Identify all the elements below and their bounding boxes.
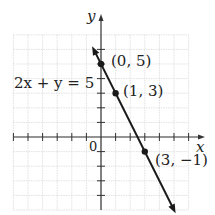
point-label-0-5: (0, 5): [111, 54, 151, 69]
y-axis-label: y: [87, 9, 95, 24]
point-label-1-3: (1, 3): [123, 84, 163, 99]
graph: y x 0 2x + y = 5 (0, 5) (1, 3) (3, −1): [0, 0, 215, 215]
line-arrow-down-icon: [168, 204, 175, 214]
origin-label: 0: [89, 140, 97, 153]
coordinate-plane: [0, 0, 215, 215]
data-point: [112, 90, 118, 96]
line-arrow-up-icon: [92, 46, 99, 56]
equation-line: [94, 49, 174, 210]
data-point: [98, 61, 104, 67]
equation-label: 2x + y = 5: [14, 76, 94, 91]
point-label-3-neg1: (3, −1): [155, 153, 208, 168]
y-axis-arrow-icon: [99, 14, 104, 21]
data-point: [142, 148, 148, 154]
